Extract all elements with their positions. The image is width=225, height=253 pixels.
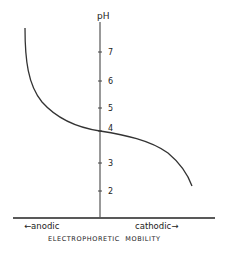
tick-label-3: 3 [108,159,113,168]
cathodic-label: cathodic→ [135,221,178,231]
tick-label-6: 6 [108,77,113,86]
ph-mobility-chart: pH 2 3 4 5 6 7 ←anodic cathodic→ ELECTRO… [0,0,225,253]
x-axis-label: ELECTROPHORETIC MOBILITY [48,235,161,243]
anodic-label: ←anodic [24,221,60,231]
y-axis-label: pH [97,11,109,21]
tick-label-7: 7 [108,48,113,57]
tick-label-5: 5 [108,104,113,113]
tick-label-2: 2 [108,187,113,196]
tick-label-4: 4 [108,124,113,133]
